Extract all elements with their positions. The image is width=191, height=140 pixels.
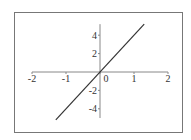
y-tick-label: -4 [89,103,97,114]
line-plot: -2-1012-4-224 [0,0,191,140]
x-tick-label: 2 [166,73,171,84]
x-tick-label: 1 [132,73,137,84]
axes: -2-1012-4-224 [28,24,171,118]
x-tick-label: -2 [28,73,36,84]
y-tick-label: 4 [92,30,97,41]
y-tick-label: -2 [89,85,97,96]
x-tick-label: -1 [62,73,70,84]
y-tick-label: 2 [92,48,97,59]
x-tick-label: 0 [104,73,109,84]
